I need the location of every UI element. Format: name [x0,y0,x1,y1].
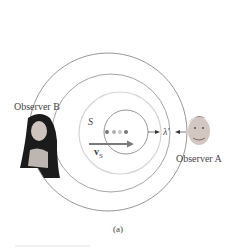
wavelength-arrow-left [148,130,160,134]
velocity-label: vS [94,146,103,160]
wavefront-2 [52,74,170,192]
source-positions [105,130,128,134]
observer-a-label: Observer A [176,153,222,164]
wavelength-label: λ′ [163,126,170,137]
figure-caption: (a) [113,224,123,234]
observer-a-photo [188,116,211,145]
doppler-diagram [0,0,243,248]
velocity-subscript: S [99,152,103,160]
wavelength-arrow-right [175,130,186,134]
observer-b-photo [20,114,60,178]
source-label: S [88,116,93,127]
observer-b-label: Observer B [14,101,60,112]
